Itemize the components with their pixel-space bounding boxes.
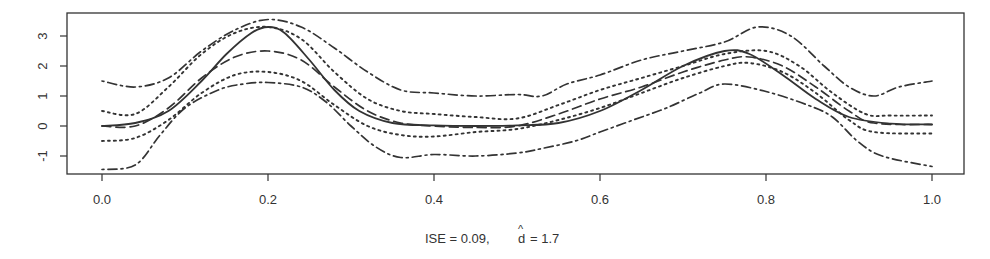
ise-label: ISE = 0.09, — [425, 231, 490, 246]
series-upper-simultaneous-band — [102, 19, 932, 96]
series-upper-pointwise-band — [102, 27, 932, 119]
chart: -10123 0.00.20.40.60.81.0 ISE = 0.09, d … — [0, 0, 990, 259]
x-axis: 0.00.20.40.60.81.0 — [93, 174, 941, 207]
x-axis-caption: ISE = 0.09, — [425, 231, 490, 246]
y-tick-label: 3 — [35, 32, 50, 39]
y-tick-label: -1 — [35, 150, 50, 162]
x-tick-label: 0.2 — [259, 192, 277, 207]
series-layer — [102, 19, 932, 169]
x-tick-label: 0.8 — [757, 192, 775, 207]
x-tick-label: 1.0 — [923, 192, 941, 207]
y-tick-label: 2 — [35, 62, 50, 69]
x-tick-label: 0.4 — [425, 192, 443, 207]
series-true-function — [102, 27, 932, 126]
x-tick-label: 0.0 — [93, 192, 111, 207]
y-axis: -10123 — [35, 32, 67, 161]
y-tick-label: 0 — [35, 122, 50, 129]
series-estimate — [102, 51, 932, 128]
series-lower-pointwise-band — [102, 63, 932, 141]
y-tick-label: 1 — [35, 92, 50, 99]
x-tick-label: 0.6 — [591, 192, 609, 207]
d-value: = 1.7 — [530, 231, 559, 246]
hat-accent: ^ — [518, 223, 524, 235]
